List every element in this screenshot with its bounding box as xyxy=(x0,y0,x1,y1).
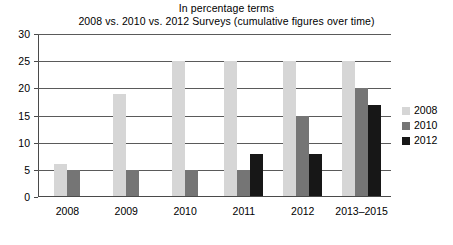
x-tick-label: 2013–2015 xyxy=(335,205,388,217)
bar xyxy=(126,170,139,196)
bar xyxy=(283,61,296,196)
x-tick-label: 2009 xyxy=(115,205,138,217)
legend-swatch-icon xyxy=(402,137,410,145)
bar xyxy=(250,154,263,196)
legend-item: 2012 xyxy=(402,133,437,148)
legend-swatch-icon xyxy=(402,122,410,130)
legend-swatch-icon xyxy=(402,107,410,115)
y-tick-label: 10 xyxy=(0,137,30,149)
bar xyxy=(54,164,67,196)
bar-group xyxy=(215,34,274,196)
bar-group xyxy=(156,34,215,196)
bar xyxy=(113,94,126,196)
bar-group xyxy=(38,34,97,196)
x-axis-line xyxy=(38,196,391,197)
y-tick-label: 20 xyxy=(0,82,30,94)
legend-label: 2012 xyxy=(414,135,437,146)
chart-title-block: In percentage terms 2008 vs. 2010 vs. 20… xyxy=(0,2,453,28)
x-tick-label: 2011 xyxy=(233,205,256,217)
y-tick-label: 5 xyxy=(0,164,30,176)
bar xyxy=(355,88,368,196)
chart-title: In percentage terms xyxy=(0,2,453,15)
x-tick-label: 2012 xyxy=(291,205,314,217)
chart-legend: 200820102012 xyxy=(402,103,437,148)
chart-subtitle: 2008 vs. 2010 vs. 2012 Surveys (cumulati… xyxy=(0,15,453,28)
legend-label: 2010 xyxy=(414,120,437,131)
plot-area xyxy=(38,34,391,197)
y-tick-label: 15 xyxy=(0,110,30,122)
y-tick-mark xyxy=(34,197,38,198)
bar xyxy=(342,61,355,196)
y-tick-label: 25 xyxy=(0,55,30,67)
bar-group xyxy=(97,34,156,196)
bar xyxy=(296,116,309,197)
bar-chart: In percentage terms 2008 vs. 2010 vs. 20… xyxy=(0,0,453,245)
bar xyxy=(309,154,322,196)
y-tick-label: 0 xyxy=(0,191,30,203)
x-tick-label: 2008 xyxy=(56,205,79,217)
legend-item: 2008 xyxy=(402,103,437,118)
bar xyxy=(224,61,237,196)
x-tick-label: 2010 xyxy=(173,205,196,217)
bar xyxy=(237,170,250,196)
legend-label: 2008 xyxy=(414,105,437,116)
legend-item: 2010 xyxy=(402,118,437,133)
bar-group xyxy=(332,34,391,196)
bar xyxy=(185,170,198,196)
bar xyxy=(368,105,381,196)
bar xyxy=(172,61,185,196)
bar xyxy=(67,170,80,196)
bar-group xyxy=(273,34,332,196)
y-tick-label: 30 xyxy=(0,28,30,40)
